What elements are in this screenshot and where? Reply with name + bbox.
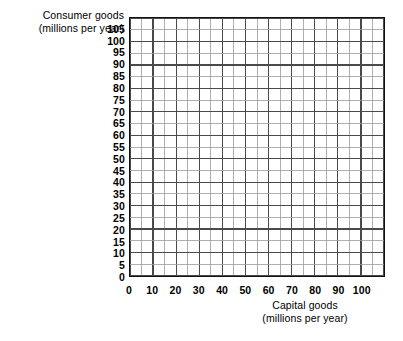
y-tick-label: 25 xyxy=(85,213,125,224)
y-tick-label: 60 xyxy=(85,130,125,141)
y-tick-label: 55 xyxy=(85,142,125,153)
x-axis-tick-labels: 0102030405060708090100 xyxy=(129,285,399,299)
chart-figure: Consumer goods (millions per year) 05101… xyxy=(0,0,403,341)
x-axis-title-line2: (millions per year) xyxy=(225,312,385,325)
y-tick-label: 75 xyxy=(85,95,125,106)
y-tick-label: 50 xyxy=(85,154,125,165)
y-tick-label: 0 xyxy=(85,272,125,283)
y-tick-label: 20 xyxy=(85,225,125,236)
x-axis-title: Capital goods (millions per year) xyxy=(225,299,385,324)
y-tick-label: 65 xyxy=(85,118,125,129)
x-axis-title-line1: Capital goods xyxy=(225,299,385,312)
y-tick-label: 5 xyxy=(85,260,125,271)
y-tick-label: 95 xyxy=(85,47,125,58)
y-tick-label: 100 xyxy=(85,36,125,47)
y-tick-label: 40 xyxy=(85,177,125,188)
y-tick-label: 45 xyxy=(85,166,125,177)
y-tick-label: 70 xyxy=(85,107,125,118)
y-tick-label: 105 xyxy=(85,24,125,35)
y-tick-label: 85 xyxy=(85,71,125,82)
plot-area xyxy=(129,17,385,277)
y-tick-label: 15 xyxy=(85,237,125,248)
y-tick-label: 35 xyxy=(85,189,125,200)
x-tick-label: 100 xyxy=(342,285,382,296)
y-tick-label: 10 xyxy=(85,248,125,259)
grid-lines xyxy=(130,18,384,276)
y-tick-label: 80 xyxy=(85,83,125,94)
y-tick-label: 30 xyxy=(85,201,125,212)
y-tick-label: 90 xyxy=(85,59,125,70)
